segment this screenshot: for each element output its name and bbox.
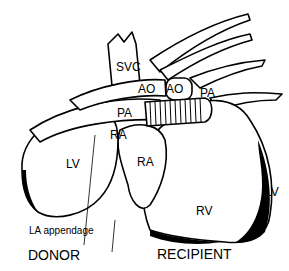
label-ao-donor: AO — [138, 83, 155, 95]
label-lv-recipient: LV — [265, 186, 279, 198]
label-recipient: RECIPIENT — [157, 247, 232, 261]
label-pa-recipient: PA — [200, 87, 215, 99]
heart-transplant-diagram: SVC AO AO PA PA RA LV RA RV LV LA append… — [0, 0, 289, 271]
vessel-pa-branch-1 — [190, 60, 265, 88]
label-lv-donor: LV — [66, 158, 80, 170]
label-ao-recipient: AO — [166, 83, 183, 95]
label-donor: DONOR — [28, 248, 80, 262]
label-pa-donor: PA — [117, 107, 132, 119]
label-ra-donor: RA — [110, 129, 127, 141]
label-svc: SVC — [116, 61, 141, 73]
label-la-appendage: LA appendage — [29, 226, 94, 236]
label-ra-recipient: RA — [137, 156, 154, 168]
svc-shape — [108, 32, 140, 86]
label-rv-recipient: RV — [196, 205, 212, 217]
